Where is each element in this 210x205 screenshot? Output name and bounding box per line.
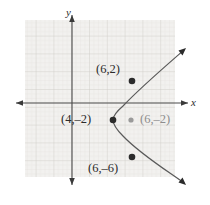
coordinate-graph-figure: (6,2) (4,–2) (6,–2) (6,–6) y x [0,0,210,205]
y-axis-label: y [66,7,71,18]
point-4-neg2-vertex [110,117,117,124]
x-axis-label: x [191,97,196,108]
grid-panel [25,20,175,177]
point-label-6-neg6: (6,–6) [88,162,118,175]
point-label-4-neg2: (4,–2) [61,113,91,126]
point-label-6-neg2: (6,–2) [140,113,170,126]
point-6-2 [129,78,136,85]
point-6-neg2-gray [128,117,133,122]
point-label-6-2: (6,2) [96,63,120,76]
point-6-neg6 [129,154,136,161]
